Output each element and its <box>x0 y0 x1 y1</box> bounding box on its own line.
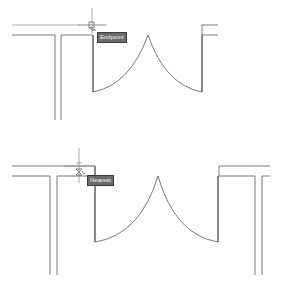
drawing-canvas[interactable]: Endpoint Nearest <box>0 0 285 285</box>
nearest-snap-marker-icon <box>76 169 85 175</box>
endpoint-snap-marker-icon <box>89 22 96 31</box>
snap-tooltip-nearest: Nearest <box>87 175 114 186</box>
drawing-geometry <box>0 0 285 285</box>
snap-tooltip-endpoint: Endpoint <box>97 32 127 43</box>
